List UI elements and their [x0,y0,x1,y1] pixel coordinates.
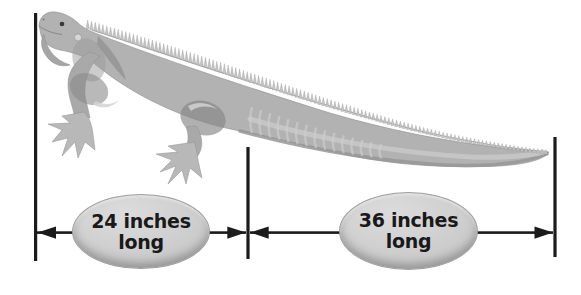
iguana-illustration [39,12,550,184]
arrowhead-right-tail [535,226,554,238]
arrowhead-right-body [227,226,246,238]
measurement-label-tail: 36 inches long [339,192,478,270]
eye-icon [60,22,65,27]
iguana-length-diagram: 24 inches long 36 inches long [0,0,581,295]
boundary-line-right [553,137,556,257]
arrowhead-left-tail [250,226,269,238]
measurement-value-body: 24 inches [91,211,190,232]
arrowhead-left-body [38,226,57,238]
ear-tympanum [74,34,81,41]
boundary-line-left [34,13,37,261]
measurement-label-body: 24 inches long [72,194,210,269]
measurement-unit-tail: long [386,231,432,252]
front-claws [48,112,95,158]
hind-claws [156,142,202,184]
boundary-line-middle [246,147,249,259]
measurement-unit-body: long [118,232,164,253]
nostril [42,18,44,20]
measurement-value-tail: 36 inches [359,210,458,231]
